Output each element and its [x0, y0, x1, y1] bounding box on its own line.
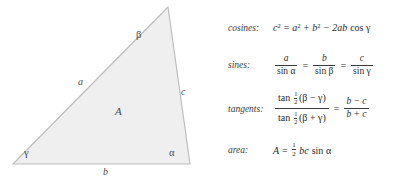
formula-body-tangents: tan 12(β − γ) tan 12(β + γ) = b − c b + …	[273, 90, 395, 127]
tangents-num-half-top: 1	[294, 91, 297, 98]
formula-row-area: area: A = 1 2 bc sin α	[228, 142, 395, 158]
tangents-num-expression: (β − γ)	[299, 92, 326, 103]
sines-f3-denominator: sin γ	[351, 67, 373, 77]
sines-f3-angle: γ	[367, 66, 371, 76]
area-equals: =	[279, 145, 291, 156]
sines-equals-1: =	[299, 60, 311, 71]
formula-row-tangents: tangents: tan 12(β − γ) tan 12(β + γ) = …	[228, 90, 395, 127]
formula-label-cosines: cosines:	[228, 23, 273, 33]
formula-body-cosines: c2 = a2 + b2 − 2ab cos γ	[273, 22, 395, 33]
tangents-rhs-fraction: b − c b + c	[344, 97, 368, 120]
tangents-num-half-bottom: 2	[294, 99, 297, 106]
area-angle: α	[323, 145, 331, 156]
sines-f1-fn: sin	[277, 66, 288, 76]
cosines-plus: +	[301, 22, 313, 33]
tangents-main-fraction: tan 12(β − γ) tan 12(β + γ)	[275, 90, 329, 127]
sines-f2-numerator: b	[320, 54, 329, 64]
sines-f1-numerator: a	[282, 54, 291, 64]
formula-label-area: area:	[228, 145, 273, 155]
formula-body-sines: a sin α = b sin β = c sin γ	[273, 54, 395, 77]
tangents-den-expression: (β + γ)	[299, 112, 326, 123]
sines-equals-2: =	[337, 60, 349, 71]
tangents-num-fn: tan	[278, 92, 290, 103]
area-half-bottom: 2	[292, 151, 296, 158]
sines-f1-angle: α	[290, 66, 295, 76]
label-side-b: b	[103, 167, 108, 177]
formula-label-tangents: tangents:	[228, 104, 273, 114]
label-angle-beta: β	[136, 30, 141, 41]
tangents-rhs-denominator: b + c	[344, 110, 368, 120]
tangents-rhs-numerator: b − c	[344, 97, 368, 107]
label-angle-alpha: α	[169, 148, 175, 159]
triangle-figure: β γ α a b c A	[0, 0, 205, 182]
sines-fraction-2: b sin β	[313, 54, 335, 77]
label-side-a: a	[78, 77, 83, 87]
cosines-angle: γ	[363, 22, 370, 33]
formula-body-area: A = 1 2 bc sin α	[273, 142, 395, 158]
tangents-den-half-bottom: 2	[294, 119, 297, 126]
trigonometry-figure-page: β γ α a b c A cosines: c2 = a2 + b2 − 2a…	[0, 0, 395, 182]
cosines-term1-exponent: 2	[297, 22, 300, 29]
sines-f1-denominator: sin α	[275, 67, 297, 77]
sines-f2-fn: sin	[315, 66, 326, 76]
tangents-equals: =	[331, 103, 343, 114]
sines-fraction-3: c sin γ	[351, 54, 373, 77]
cosines-lhs-exponent: 2	[277, 22, 280, 29]
area-half-top: 1	[292, 142, 296, 149]
formula-label-sines: sines:	[228, 60, 273, 70]
sines-f3-numerator: c	[358, 54, 366, 64]
sines-fraction-1: a sin α	[275, 54, 297, 77]
tangents-den-half-top: 1	[294, 111, 297, 118]
area-factors: bc	[297, 145, 308, 156]
cosines-function: cos	[347, 22, 363, 33]
area-function: sin	[309, 145, 324, 156]
tangents-den-fn: tan	[278, 112, 290, 123]
tangents-denominator: tan 12(β + γ)	[275, 110, 329, 127]
cosines-term2-exponent: 2	[317, 22, 320, 29]
label-area-A: A	[115, 106, 122, 117]
tangents-main-bar	[275, 108, 329, 109]
formula-row-cosines: cosines: c2 = a2 + b2 − 2ab cos γ	[228, 22, 395, 33]
sines-f2-denominator: sin β	[313, 67, 335, 77]
sines-f3-fn: sin	[353, 66, 364, 76]
cosines-coefficient: 2ab	[332, 22, 347, 33]
area-half-fraction: 1 2	[292, 142, 296, 158]
sines-f2-angle: β	[329, 66, 334, 76]
tangents-den-half: 12	[294, 111, 297, 126]
triangle-shape	[13, 7, 190, 164]
cosines-minus: −	[320, 22, 332, 33]
formula-row-sines: sines: a sin α = b sin β = c sin γ	[228, 54, 395, 77]
tangents-num-half: 12	[294, 91, 297, 106]
tangents-numerator: tan 12(β − γ)	[275, 90, 329, 107]
cosines-equals: =	[281, 22, 293, 33]
label-side-c: c	[181, 87, 185, 97]
formula-list: cosines: c2 = a2 + b2 − 2ab cos γ sines:…	[228, 14, 395, 174]
label-angle-gamma: γ	[24, 148, 29, 159]
